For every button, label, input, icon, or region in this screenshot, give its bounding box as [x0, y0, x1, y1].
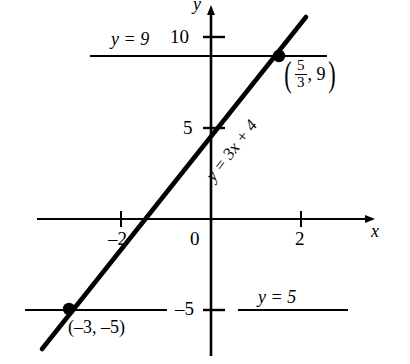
- point-label-lower: (–3, –5): [68, 318, 125, 336]
- origin-label: 0: [190, 229, 200, 248]
- label-line-y5: y = 5: [258, 288, 296, 306]
- y-tick-label-5: 5: [183, 118, 193, 137]
- y-axis-label: y: [193, 0, 201, 13]
- fraction-numerator: 5: [295, 58, 307, 74]
- fraction-five-thirds: 5 3: [295, 58, 307, 91]
- y-tick-label-10: 10: [170, 27, 189, 46]
- fraction-denominator: 3: [295, 74, 307, 91]
- coord-y-value: 9: [317, 65, 326, 83]
- paren-close: ): [328, 56, 335, 92]
- label-line-y9: y = 9: [111, 30, 149, 48]
- x-tick-label-2: 2: [295, 229, 305, 248]
- paren-open: (: [284, 56, 291, 92]
- plot-canvas: [0, 0, 410, 364]
- coord-separator: ,: [308, 65, 317, 83]
- math-figure: y x 10 5 –5 –2 2 0 y = 9 y = 5 y = 3x + …: [0, 0, 410, 364]
- point-label-upper: ( 5 3 , 9 ): [282, 56, 338, 92]
- x-axis-label: x: [371, 222, 379, 240]
- y-tick-label--5: –5: [175, 299, 194, 318]
- x-tick-label--2: –2: [108, 229, 127, 248]
- point-marker-lower: [63, 303, 75, 315]
